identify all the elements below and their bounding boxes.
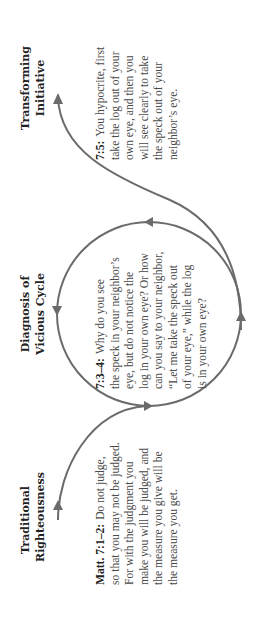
- heading-line: Traditional: [18, 478, 33, 562]
- passage-line: neighbor’s eye.: [167, 47, 182, 160]
- passage-line: For with the judgment you: [123, 442, 138, 585]
- arrowhead-down-icon: [52, 306, 62, 316]
- verse-ref: Matt. 7:1–2:: [94, 524, 107, 585]
- entry-arrowhead-icon: [53, 500, 63, 510]
- passage-line: Matt. 7:1–2:Do not judge,: [94, 442, 109, 585]
- heading-line: Transforming: [18, 46, 33, 130]
- passage-line: the measure you get.: [167, 442, 182, 585]
- heading-line: Righteousness: [33, 478, 48, 562]
- passage-line: eye, but do not notice the: [123, 252, 138, 389]
- passage-line: own eye, and then you: [123, 47, 138, 160]
- passage-line: the measure you give will be: [152, 442, 167, 585]
- passage-line: the speck out of your: [152, 47, 167, 160]
- passage-line: take the log out of your: [109, 47, 124, 160]
- passage-line: make you will be judged, and: [138, 442, 153, 585]
- arrowhead-right-icon: [144, 401, 153, 411]
- heading-line: Diagnosis of: [18, 272, 33, 356]
- heading-line: Initiative: [33, 46, 48, 130]
- diagram-canvas: Transforming Initiative Diagnosis of Vic…: [0, 0, 267, 627]
- exit-arrowhead-icon: [53, 93, 63, 104]
- passage-line: “Let me take the speck out: [167, 252, 182, 389]
- passage-line: of your eye,” while the log: [181, 252, 196, 389]
- passage-text: Why do you see: [94, 279, 107, 354]
- passage-line: will see clearly to take: [138, 47, 153, 160]
- passage-text: Do not judge,: [94, 456, 107, 519]
- passage-line: so that you may not be judged.: [109, 442, 124, 585]
- verse-ref: 7:5:: [94, 141, 107, 160]
- verse-ref: 7:3–4:: [94, 358, 107, 389]
- heading-transforming-initiative: Transforming Initiative: [18, 46, 48, 130]
- passage-diagnosis: 7:3–4:Why do you see the speck in your n…: [94, 252, 210, 389]
- passage-transforming: 7:5:You hypocrite, first take the log ou…: [94, 47, 181, 160]
- passage-line: is in your own eye?: [196, 252, 211, 389]
- passage-traditional: Matt. 7:1–2:Do not judge, so that you ma…: [94, 442, 181, 585]
- passage-line: 7:5:You hypocrite, first: [94, 47, 109, 160]
- passage-line: 7:3–4:Why do you see: [94, 252, 109, 389]
- arrowhead-up-icon: [236, 311, 246, 321]
- passage-line: can you say to your neighbor,: [152, 252, 167, 389]
- heading-traditional-righteousness: Traditional Righteousness: [18, 478, 48, 562]
- heading-line: Vicious Cycle: [33, 272, 48, 356]
- arrowhead-left-icon: [144, 217, 153, 227]
- passage-line: the speck in your neighbor’s: [109, 252, 124, 389]
- passage-line: log in your own eye? Or how: [138, 252, 153, 389]
- heading-diagnosis-vicious-cycle: Diagnosis of Vicious Cycle: [18, 272, 48, 356]
- passage-text: You hypocrite, first: [94, 47, 107, 137]
